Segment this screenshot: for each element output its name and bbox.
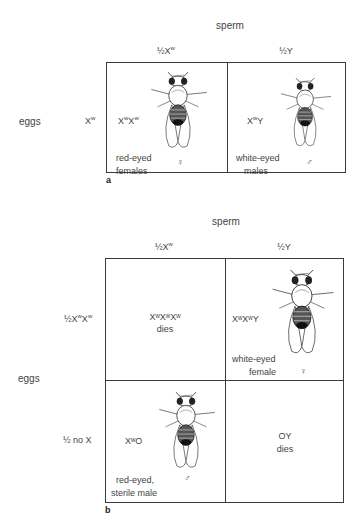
phenotype-b2-line1: white-eyed: [232, 354, 276, 364]
male-symbol-b3: ♂: [184, 473, 191, 483]
column-header-y-b: ½Y: [264, 242, 304, 252]
row-header-nox-b: ½ no X: [63, 435, 92, 445]
genotype-b1: XʷXʷXʷ: [130, 312, 200, 322]
column-header-y-a: ½Y: [266, 46, 306, 56]
phenotype-b3-line2: sterile male: [111, 488, 157, 498]
phenotype-a2-line2: males: [244, 166, 268, 176]
phenotype-b2-line2: female: [249, 367, 276, 377]
phenotype-a1-line1: red-eyed: [116, 153, 152, 163]
male-fly-icon: [276, 78, 336, 150]
genotype-b4: OY: [250, 431, 320, 441]
female-fly-icon: [150, 72, 208, 152]
phenotype-b3-line1: red-eyed,: [116, 475, 154, 485]
male-symbol-a2: ♂: [306, 157, 313, 167]
phenotype-a2-line1: white-eyed: [236, 153, 280, 163]
eggs-label-a: eggs: [19, 116, 41, 127]
female-symbol-b2: ♀: [300, 366, 307, 376]
genotype-b2: XʷXʷY: [232, 314, 259, 324]
eggs-label-b: eggs: [18, 373, 40, 384]
male-fly-icon: [152, 392, 222, 472]
sperm-label-a: sperm: [200, 20, 260, 31]
panel-label-b: b: [105, 505, 111, 515]
row-header-xx-b: ½XwXw: [64, 314, 92, 324]
genotype-b3: XʷO: [125, 436, 142, 446]
grid-hdivider-b: [105, 380, 344, 381]
panel-label-a: a: [106, 175, 111, 185]
genotype-a2: XwY: [247, 116, 263, 126]
sperm-label-b: sperm: [196, 216, 256, 227]
female-fly-icon: [270, 270, 336, 358]
column-header-x-a: ½Xw: [146, 46, 186, 56]
genotype-a1: XwXw: [118, 116, 139, 126]
row-header-a: Xw: [85, 116, 95, 126]
column-header-x-b: ½Xw: [144, 242, 184, 252]
phenotype-a1-line2: females: [116, 166, 148, 176]
outcome-b1: dies: [130, 324, 200, 334]
grid-divider-a: [227, 62, 228, 173]
female-symbol-a1: ♀: [177, 157, 184, 167]
outcome-b4: dies: [250, 444, 320, 454]
